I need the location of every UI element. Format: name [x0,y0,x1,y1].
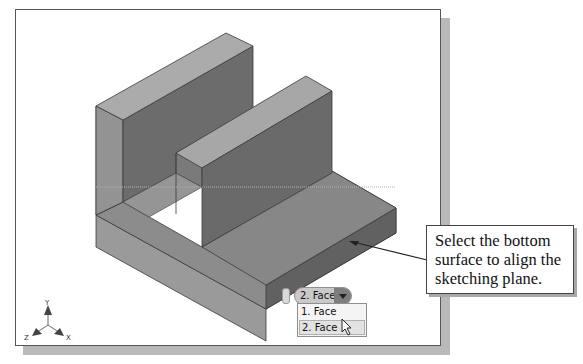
instruction-callout: Select the bottom surface to align the s… [426,225,574,294]
graphics-viewport[interactable]: Y Z X [15,9,441,346]
z-axis-label: Z [24,334,29,342]
callout-line-1: Select the bottom [435,231,565,250]
menu-item-face-1[interactable]: 1. Face [298,304,366,319]
y-axis-label: Y [44,299,50,307]
x-axis-arrow-icon [54,328,64,336]
mouse-cursor-icon [341,318,353,336]
selector-grip-handle[interactable] [282,288,290,304]
menu-item-face-2[interactable]: 2. Face [299,320,365,335]
left-wall-end-face [96,106,123,215]
chevron-down-icon[interactable] [334,288,351,304]
callout-line-2: surface to align the [435,250,565,269]
callout-line-3: sketching plane. [435,269,565,288]
selection-current-value: 2. Face [300,290,335,301]
x-axis-label: X [66,334,71,342]
selection-options-menu[interactable]: 1. Face 2. Face [297,303,367,337]
axis-triad: Y Z X [23,297,83,342]
3d-model[interactable] [16,10,441,346]
z-axis-arrow-icon [32,328,42,336]
